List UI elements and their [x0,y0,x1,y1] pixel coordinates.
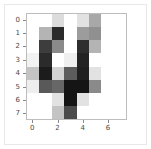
heatmap-cell [27,53,39,66]
heatmap-cell [101,67,113,80]
heatmap-cell [39,93,51,106]
y-tick-mark [23,73,26,74]
heatmap-cell [89,67,101,80]
heatmap-cell [89,53,101,66]
x-tick-mark [58,120,59,123]
y-tick-label: 4 [6,69,20,77]
x-tick-label: 0 [25,124,39,132]
heatmap-cell [39,67,51,80]
heatmap-cell [64,53,76,66]
y-tick-label: 1 [6,29,20,37]
heatmap-cell [39,14,51,27]
y-tick-mark [23,113,26,114]
y-tick-mark [23,20,26,21]
heatmap-cell [64,40,76,53]
heatmap-cell [52,93,64,106]
heatmap-cell [52,53,64,66]
heatmap-cell [101,27,113,40]
heatmap-cell [89,106,101,119]
heatmap-cell [27,67,39,80]
heatmap-cell [64,27,76,40]
heatmap-cell [89,93,101,106]
y-tick-mark [23,33,26,34]
heatmap-cell [64,93,76,106]
heatmap-cell [52,14,64,27]
x-tick-label: 4 [76,124,90,132]
heatmap-cell [64,80,76,93]
heatmap-cell [89,80,101,93]
y-tick-mark [23,46,26,47]
heatmap-cell [114,106,126,119]
y-tick-label: 5 [6,83,20,91]
heatmap-cell [77,80,89,93]
x-tick-label: 6 [101,124,115,132]
heatmap-cell [114,53,126,66]
heatmap-cell [27,106,39,119]
digit-image-heatmap [27,14,126,119]
y-tick-mark [23,87,26,88]
x-tick-label: 2 [51,124,65,132]
y-tick-label: 2 [6,42,20,50]
heatmap-cell [39,27,51,40]
heatmap-cell [77,40,89,53]
heatmap-cell [114,40,126,53]
heatmap-cell [77,93,89,106]
y-tick-mark [23,100,26,101]
y-tick-mark [23,60,26,61]
heatmap-cell [52,106,64,119]
heatmap-cell [114,27,126,40]
heatmap-cell [101,80,113,93]
heatmap-cell [77,27,89,40]
x-tick-mark [32,120,33,123]
heatmap-cell [101,106,113,119]
heatmap-cell [101,53,113,66]
heatmap-cell [89,40,101,53]
heatmap-cell [77,106,89,119]
heatmap-cell [27,80,39,93]
heatmap-cell [39,80,51,93]
heatmap-cell [77,53,89,66]
matplotlib-figure: 01234567 0246 [0,0,151,149]
heatmap-cell [27,27,39,40]
heatmap-cell [64,67,76,80]
heatmap-cell [89,14,101,27]
heatmap-cell [114,93,126,106]
y-tick-label: 6 [6,96,20,104]
heatmap-cell [52,67,64,80]
heatmap-cell [39,106,51,119]
x-tick-mark [108,120,109,123]
heatmap-cell [52,40,64,53]
heatmap-cell [101,93,113,106]
heatmap-cell [77,67,89,80]
heatmap-cell [101,40,113,53]
heatmap-cell [101,14,113,27]
heatmap-cell [39,53,51,66]
y-tick-label: 7 [6,109,20,117]
y-tick-label: 0 [6,16,20,24]
heatmap-cell [89,27,101,40]
y-tick-label: 3 [6,56,20,64]
heatmap-cell [52,27,64,40]
plot-axes [26,13,127,120]
heatmap-cell [114,67,126,80]
heatmap-cell [27,93,39,106]
heatmap-cell [39,40,51,53]
heatmap-cell [64,106,76,119]
heatmap-cell [64,14,76,27]
heatmap-cell [52,80,64,93]
heatmap-cell [114,80,126,93]
heatmap-cell [77,14,89,27]
heatmap-cell [27,14,39,27]
heatmap-cell [114,14,126,27]
x-tick-mark [83,120,84,123]
heatmap-cell [27,40,39,53]
